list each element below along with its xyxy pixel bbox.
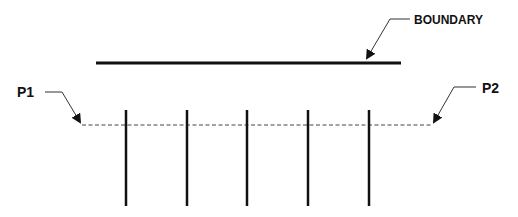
p1-label: P1 bbox=[17, 84, 34, 100]
boundary-leader-arrow-icon bbox=[367, 19, 410, 58]
p2-leader-arrow-icon bbox=[434, 87, 476, 122]
boundary-diagram: BOUNDARY P1 P2 bbox=[0, 0, 518, 217]
p2-label: P2 bbox=[482, 80, 499, 96]
posts bbox=[126, 110, 369, 206]
boundary-label: BOUNDARY bbox=[414, 13, 483, 27]
p1-leader-arrow-icon bbox=[45, 92, 80, 122]
